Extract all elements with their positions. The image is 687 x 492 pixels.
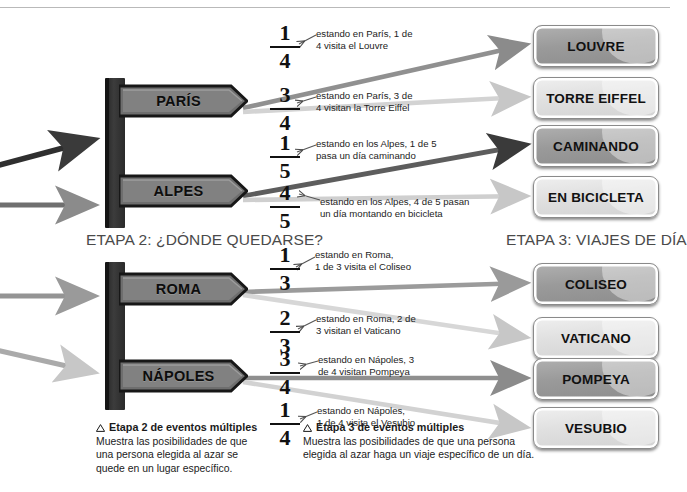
callout-en-bicicleta: estando en los Alpes, 4 de 5 pasan un dí… — [320, 196, 469, 219]
callout-vaticano: estando en Roma, 2 de 3 visitan el Vatic… — [316, 313, 416, 336]
fraction-numerator: 4 — [268, 182, 302, 205]
fraction-caminando: 1 5 — [268, 132, 302, 182]
stage3-heading: ETAPA 3: VIAJES DE DÍA — [506, 231, 687, 249]
destination-label: EN BICICLETA — [548, 190, 644, 205]
destination-coliseo[interactable]: COLISEO — [533, 263, 659, 305]
fraction-en-bicicleta: 4 5 — [268, 182, 302, 232]
destination-torre-eiffel[interactable]: TORRE EIFFEL — [533, 77, 659, 119]
fraction-numerator: 1 — [268, 399, 302, 422]
fraction-numerator: 3 — [268, 84, 302, 107]
legend-title-text: Etapa 2 de eventos múltiples — [109, 421, 257, 433]
destination-caminando[interactable]: CAMINANDO — [533, 125, 659, 167]
destination-label: LOUVRE — [567, 39, 624, 54]
destination-label: TORRE EIFFEL — [546, 91, 646, 106]
legend-title-text: Etapa 3 de eventos múltiples — [316, 421, 464, 433]
destination-louvre[interactable]: LOUVRE — [533, 25, 659, 67]
callout-caminando: estando en los Alpes, 1 de 5 pasa un día… — [316, 138, 437, 161]
fraction-vesubio: 1 4 — [268, 399, 302, 449]
legend-title-row: Etapa 3 de eventos múltiples — [303, 421, 534, 434]
fraction-denominator: 4 — [268, 49, 302, 72]
fraction-numerator: 2 — [268, 307, 302, 330]
destination-label: VESUBIO — [565, 421, 627, 436]
destination-vaticano[interactable]: VATICANO — [533, 317, 659, 359]
legend-title-row: Etapa 2 de eventos múltiples — [96, 421, 257, 434]
top-divider-rule — [0, 7, 670, 8]
callout-louvre: estando en París, 1 de 4 visita el Louvr… — [316, 28, 413, 51]
fraction-numerator: 1 — [268, 244, 302, 267]
fraction-numerator: 1 — [268, 132, 302, 155]
destination-label: POMPEYA — [562, 372, 630, 387]
triangle-outline-icon — [96, 424, 105, 432]
destination-pompeya[interactable]: POMPEYA — [533, 358, 659, 400]
destination-label: VATICANO — [561, 331, 631, 346]
callout-pompeya: estando en Nápoles, 3 de 4 visitan Pompe… — [318, 354, 414, 377]
destination-vesubio[interactable]: VESUBIO — [533, 407, 659, 449]
fraction-pompeya: 3 4 — [268, 348, 302, 398]
legend-body-text: Muestra las posibilidades de que una per… — [96, 435, 257, 475]
fraction-louvre: 1 4 — [268, 22, 302, 72]
destination-label: CAMINANDO — [553, 139, 639, 154]
fraction-torre-eiffel: 3 4 — [268, 84, 302, 134]
fraction-denominator: 5 — [268, 159, 302, 182]
fraction-denominator: 3 — [268, 271, 302, 294]
fraction-numerator: 3 — [268, 348, 302, 371]
fraction-numerator: 1 — [268, 22, 302, 45]
legend-stage3: Etapa 3 de eventos múltiples Muestra las… — [303, 421, 534, 462]
callout-coliseo: estando en Roma, 1 de 3 visita el Colise… — [315, 249, 411, 272]
legend-body-text: Muestra las posibilidades de que una per… — [303, 435, 534, 461]
fraction-denominator: 4 — [268, 426, 302, 449]
triangle-outline-icon — [303, 424, 312, 432]
destination-en-bicicleta[interactable]: EN BICICLETA — [533, 176, 659, 218]
destination-label: COLISEO — [565, 277, 627, 292]
fraction-denominator: 5 — [268, 209, 302, 232]
callout-torre-eiffel: estando en París, 3 de 4 visitan la Torr… — [316, 90, 413, 113]
legend-stage2: Etapa 2 de eventos múltiples Muestra las… — [96, 421, 257, 475]
fraction-denominator: 4 — [268, 375, 302, 398]
fraction-coliseo: 1 3 — [268, 244, 302, 294]
